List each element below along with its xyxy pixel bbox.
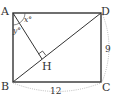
vertex-label-d: D [101,5,110,18]
angle-label-y: y° [12,26,21,35]
angle-label-x: x° [24,15,32,24]
dimension-label-bc: 12 [50,86,61,96]
dimension-label-dc: 9 [105,44,111,54]
rectangle-diagram: A D B C H x° y° 9 12 [0,0,116,108]
vertex-label-h: H [42,60,52,73]
vertex-label-a: A [0,5,10,18]
vertex-label-c: C [102,81,110,94]
angle-arc-y [13,23,20,25]
vertex-label-b: B [1,80,9,93]
